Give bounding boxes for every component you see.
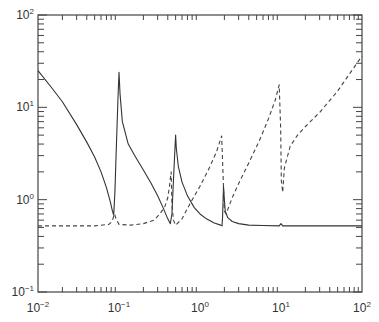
plot-frame	[38, 15, 362, 292]
solid-curve	[38, 71, 362, 226]
log-log-line-chart: 10−210−1100101102 10−1100101102	[0, 0, 379, 322]
y-tick-label: 102	[16, 7, 34, 22]
y-tick-label: 100	[16, 192, 34, 207]
x-tick-label: 100	[191, 300, 209, 315]
x-tick-label: 10−2	[27, 300, 50, 315]
x-tick-label: 101	[272, 300, 290, 315]
x-tick-label: 10−1	[108, 300, 131, 315]
y-axis-tick-labels: 10−1100101102	[12, 7, 35, 299]
y-tick-label: 10−1	[12, 284, 35, 299]
y-tick-label: 101	[16, 99, 34, 114]
x-tick-label: 102	[353, 300, 371, 315]
x-axis-tick-labels: 10−210−1100101102	[27, 300, 372, 315]
axis-ticks	[38, 15, 362, 292]
data-series	[38, 56, 362, 226]
